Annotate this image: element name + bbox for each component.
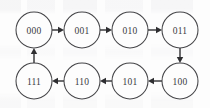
nodes-layer: 000001010011111110101100 bbox=[16, 12, 198, 99]
edge-100-to-101 bbox=[148, 78, 162, 84]
edge-110-to-111 bbox=[52, 78, 64, 84]
edge-011-to-100 bbox=[177, 48, 183, 63]
node-label: 100 bbox=[173, 77, 188, 87]
state-node-011[interactable]: 011 bbox=[162, 12, 198, 48]
state-node-010[interactable]: 010 bbox=[112, 12, 148, 48]
arrowhead-icon bbox=[106, 27, 112, 33]
node-label: 111 bbox=[27, 77, 41, 87]
arrowhead-icon bbox=[52, 78, 58, 84]
edge-101-to-110 bbox=[100, 78, 112, 84]
arrowhead-icon bbox=[177, 57, 183, 63]
diagram-canvas: 000001010011111110101100 bbox=[0, 0, 210, 108]
state-node-110[interactable]: 110 bbox=[64, 63, 100, 99]
state-cycle-graph: 000001010011111110101100 bbox=[0, 0, 210, 108]
arrowhead-icon bbox=[31, 48, 37, 54]
arrowhead-icon bbox=[148, 78, 154, 84]
node-label: 011 bbox=[173, 26, 188, 36]
node-label: 000 bbox=[27, 26, 42, 36]
edge-111-to-000 bbox=[31, 48, 37, 63]
edge-001-to-010 bbox=[100, 27, 112, 33]
edge-000-to-001 bbox=[52, 27, 64, 33]
node-label: 001 bbox=[75, 26, 90, 36]
node-label: 110 bbox=[75, 77, 90, 87]
state-node-100[interactable]: 100 bbox=[162, 63, 198, 99]
state-node-000[interactable]: 000 bbox=[16, 12, 52, 48]
edges-layer bbox=[31, 27, 183, 84]
state-node-101[interactable]: 101 bbox=[112, 63, 148, 99]
state-node-111[interactable]: 111 bbox=[16, 63, 52, 99]
node-label: 010 bbox=[123, 26, 138, 36]
arrowhead-icon bbox=[58, 27, 64, 33]
arrowhead-icon bbox=[100, 78, 106, 84]
state-node-001[interactable]: 001 bbox=[64, 12, 100, 48]
node-label: 101 bbox=[123, 77, 138, 87]
arrowhead-icon bbox=[156, 27, 162, 33]
edge-010-to-011 bbox=[148, 27, 162, 33]
